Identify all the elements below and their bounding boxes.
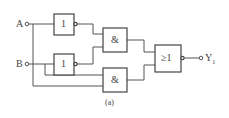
and-gate-top-label: &	[111, 35, 119, 45]
or-gate-label: ≥1	[161, 53, 172, 63]
not-gate-bottom-label: 1	[61, 59, 66, 69]
input-a-label: A	[16, 19, 23, 29]
input-b-label: B	[16, 59, 23, 69]
output-label: Y1	[205, 53, 215, 65]
not-bubble-bottom	[74, 62, 77, 65]
caption: (a)	[105, 99, 114, 107]
and-gate-bottom-label: &	[111, 75, 119, 85]
output-label-subscript: 1	[212, 59, 215, 65]
input-b-terminal	[25, 62, 29, 66]
circuit-wires	[0, 0, 229, 118]
not-bubble-top	[74, 22, 77, 25]
output-terminal	[199, 56, 203, 60]
not-gate-top-label: 1	[61, 19, 66, 29]
or-bubble	[181, 56, 184, 59]
logic-circuit-diagram: A B 1 1 & & ≥1 Y1 (a)	[0, 0, 229, 118]
input-a-terminal	[25, 22, 29, 26]
